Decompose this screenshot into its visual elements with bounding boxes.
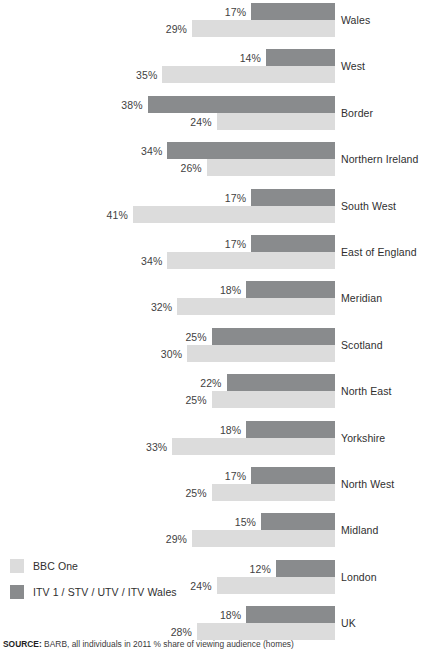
bar-value-label-bbc: 29% bbox=[141, 21, 187, 37]
category-label: Midland bbox=[341, 524, 378, 537]
bar-value-label-bbc: 35% bbox=[111, 67, 157, 83]
bar-itv bbox=[167, 142, 335, 159]
category-label: Yorkshire bbox=[341, 432, 385, 445]
bar-bbc bbox=[172, 438, 335, 455]
bar-itv bbox=[246, 281, 335, 298]
bar-value-label-bbc: 32% bbox=[126, 299, 172, 315]
legend-swatch-icon-bbc-one bbox=[10, 559, 24, 573]
bar-value-label-bbc: 25% bbox=[161, 392, 207, 408]
bar-itv bbox=[212, 328, 335, 345]
bar-value-label-bbc: 29% bbox=[141, 531, 187, 547]
bar-bbc bbox=[167, 252, 335, 269]
bar-value-label-itv: 18% bbox=[195, 422, 241, 438]
bar-value-label-bbc: 24% bbox=[166, 114, 212, 130]
bar-row-itv: 18% bbox=[0, 606, 425, 623]
bar-bbc bbox=[217, 113, 335, 130]
bar-value-label-bbc: 41% bbox=[82, 207, 128, 223]
bar-value-label-itv: 14% bbox=[215, 50, 261, 66]
bar-value-label-bbc: 25% bbox=[161, 485, 207, 501]
bar-itv bbox=[251, 235, 335, 252]
category-label: East of England bbox=[341, 246, 417, 259]
bar-row-bbc: 28% bbox=[0, 623, 425, 640]
bar-value-label-itv: 17% bbox=[200, 236, 246, 252]
bar-value-label-bbc: 26% bbox=[156, 160, 202, 176]
bar-bbc bbox=[192, 530, 335, 547]
bar-bbc bbox=[133, 206, 335, 223]
bar-bbc bbox=[212, 391, 335, 408]
bar-bbc bbox=[207, 159, 335, 176]
source-text: BARB, all individuals in 2011 % share of… bbox=[42, 639, 294, 649]
bar-itv bbox=[148, 96, 335, 113]
bar-value-label-itv: 18% bbox=[195, 607, 241, 623]
bar-value-label-itv: 38% bbox=[97, 97, 143, 113]
category-label: Scotland bbox=[341, 339, 383, 352]
bar-value-label-itv: 17% bbox=[200, 190, 246, 206]
bar-itv bbox=[266, 49, 335, 66]
bar-value-label-itv: 12% bbox=[225, 561, 271, 577]
category-label: North West bbox=[341, 478, 394, 491]
bar-bbc bbox=[212, 484, 335, 501]
source-label: SOURCE: bbox=[3, 639, 42, 649]
bar-group: 18%28% bbox=[0, 606, 425, 640]
category-label: UK bbox=[341, 617, 356, 630]
bar-itv bbox=[246, 606, 335, 623]
bar-value-label-itv: 22% bbox=[176, 375, 222, 391]
category-label: South West bbox=[341, 200, 396, 213]
bar-value-label-itv: 18% bbox=[195, 282, 241, 298]
category-label: Meridian bbox=[341, 292, 382, 305]
bar-value-label-itv: 25% bbox=[161, 329, 207, 345]
legend-label-bbc-one: BBC One bbox=[33, 558, 78, 574]
legend-label-itv: ITV 1 / STV / UTV / ITV Wales bbox=[33, 584, 177, 600]
legend-swatch-icon-itv bbox=[10, 585, 24, 599]
bar-bbc bbox=[187, 345, 335, 362]
bar-value-label-itv: 17% bbox=[200, 468, 246, 484]
bar-itv bbox=[276, 560, 335, 577]
category-label: West bbox=[341, 60, 365, 73]
bar-itv bbox=[251, 189, 335, 206]
bar-itv bbox=[261, 513, 335, 530]
bar-value-label-bbc: 28% bbox=[146, 624, 192, 640]
bar-itv bbox=[227, 374, 335, 391]
bar-value-label-itv: 34% bbox=[116, 143, 162, 159]
bar-itv bbox=[251, 467, 335, 484]
bar-itv bbox=[246, 421, 335, 438]
bar-value-label-bbc: 34% bbox=[116, 253, 162, 269]
bar-bbc bbox=[217, 577, 335, 594]
bar-value-label-bbc: 30% bbox=[136, 346, 182, 362]
bar-bbc bbox=[177, 298, 335, 315]
bar-itv bbox=[251, 3, 335, 20]
category-label: Wales bbox=[341, 14, 370, 27]
bar-value-label-itv: 15% bbox=[210, 514, 256, 530]
category-label: Border bbox=[341, 107, 373, 120]
source-note: SOURCE: BARB, all individuals in 2011 % … bbox=[3, 639, 423, 650]
bar-bbc bbox=[162, 66, 335, 83]
category-label: North East bbox=[341, 385, 392, 398]
bar-bbc bbox=[197, 623, 335, 640]
bar-value-label-bbc: 33% bbox=[121, 439, 167, 455]
category-label: London bbox=[341, 571, 377, 584]
bar-chart: 17%29%Wales14%35%West38%24%Border34%26%N… bbox=[0, 0, 425, 651]
category-label: Northern Ireland bbox=[341, 153, 418, 166]
bar-value-label-itv: 17% bbox=[200, 4, 246, 20]
bar-bbc bbox=[192, 20, 335, 37]
